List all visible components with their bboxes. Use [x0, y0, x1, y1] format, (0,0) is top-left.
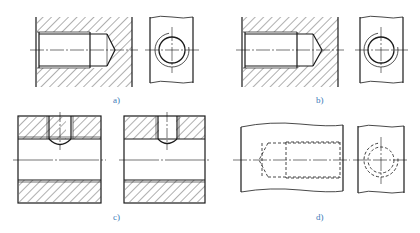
panel-a-end-view — [145, 16, 199, 83]
panel-b-section-view — [236, 17, 344, 87]
panel-label-c: c) — [113, 212, 120, 222]
panel-label-d: d) — [316, 212, 324, 222]
panel-d-end-view — [353, 125, 409, 193]
panel-d-front-view — [233, 123, 350, 192]
panel-c-right-part — [119, 112, 210, 203]
drawing-canvas — [0, 0, 420, 233]
panel-label-b: b) — [316, 95, 324, 105]
panel-a-section-view — [30, 17, 138, 87]
panel-c-left-part — [13, 112, 106, 203]
panel-b-end-view — [355, 16, 408, 83]
panel-label-a: a) — [113, 95, 120, 105]
